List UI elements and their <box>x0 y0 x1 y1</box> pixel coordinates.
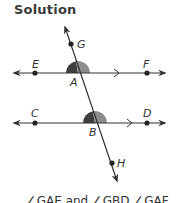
label-D: D <box>143 107 151 120</box>
label-B: B <box>89 126 97 139</box>
label-E: E <box>32 58 39 71</box>
angle-arc-A-left <box>66 61 78 73</box>
label-G: G <box>77 38 86 51</box>
label-H: H <box>117 157 125 170</box>
label-C: C <box>31 107 39 120</box>
point-E <box>32 70 37 75</box>
label-A: A <box>69 76 78 89</box>
point-F <box>144 70 149 75</box>
transversal-GH <box>65 27 117 181</box>
point-D <box>144 120 149 125</box>
label-F: F <box>143 58 150 71</box>
parallel-lines-diagram: E F G A C D B H <box>0 0 178 203</box>
solution-caption: ∠GAE and ∠GBD ∠GAF <box>26 194 169 203</box>
point-G <box>68 41 73 46</box>
point-C <box>32 120 37 125</box>
angle-arc-B-left <box>83 111 95 123</box>
point-H <box>109 160 114 165</box>
